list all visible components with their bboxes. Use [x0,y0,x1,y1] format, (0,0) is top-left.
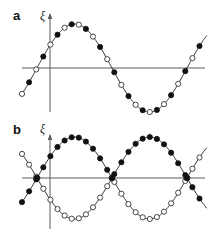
marker-open-atom [140,215,145,220]
marker-open-atom [190,56,195,61]
panel-b-y-arrowhead [48,134,53,140]
marker-filled-atom [126,93,131,98]
marker-open-atom [90,34,95,39]
marker-open-atom [69,216,74,221]
marker-open-atom [34,67,39,72]
marker-filled-atom [19,200,24,205]
panel-optical-mode: b ξ [0,117,209,234]
marker-filled-atom [83,139,88,144]
marker-open-atom [126,202,131,207]
marker-filled-atom [147,134,152,139]
marker-filled-atom [83,26,88,31]
marker-open-atom [119,191,124,196]
marker-open-atom [133,102,138,107]
marker-filled-atom [98,156,103,161]
marker-open-atom [133,210,138,215]
marker-filled-atom [112,70,117,75]
marker-filled-atom [140,136,145,141]
marker-filled-atom [48,154,53,159]
panel-a-plot [0,0,209,117]
marker-filled-atom [109,175,115,181]
marker-open-atom [154,214,159,219]
marker-filled-atom [197,196,202,201]
marker-open-atom [176,190,181,195]
marker-filled-atom [98,44,103,49]
marker-filled-atom [69,135,74,140]
marker-open-atom [41,186,46,191]
marker-open-atom [105,57,110,62]
marker-open-atom [119,82,124,87]
marker-open-atom [98,195,103,200]
marker-filled-atom [154,136,159,141]
marker-filled-atom [169,150,174,155]
marker-filled-atom [184,175,190,181]
marker-open-atom [27,162,32,167]
marker-filled-atom [41,165,46,170]
marker-open-atom [48,42,53,47]
marker-open-atom [161,209,166,214]
marker-open-atom [19,91,24,96]
marker-open-atom [83,212,88,217]
panel-b-plot [0,117,209,234]
marker-filled-atom [55,144,60,149]
marker-open-atom [161,102,166,107]
marker-open-atom [48,197,53,202]
marker-filled-atom [154,107,159,112]
marker-filled-atom [69,22,74,27]
marker-filled-atom [62,138,67,143]
marker-open-atom [62,213,67,218]
marker-filled-atom [133,141,138,146]
marker-open-atom [76,22,81,27]
marker-open-atom [105,184,110,189]
marker-filled-atom [176,161,181,166]
marker-open-atom [147,109,152,114]
panel-a-y-arrowhead [48,13,53,19]
marker-filled-atom [119,160,124,165]
marker-open-atom [190,166,195,171]
panel-acoustic-mode: a ξ [0,0,209,117]
marker-filled-atom [161,142,166,147]
marker-open-atom [197,155,202,160]
marker-filled-atom [27,80,32,85]
marker-filled-atom [34,175,40,181]
marker-open-atom [90,205,95,210]
marker-filled-atom [126,149,131,154]
marker-open-atom [62,25,67,30]
marker-open-atom [147,216,152,221]
marker-filled-atom [183,69,188,74]
marker-filled-atom [105,167,110,172]
marker-filled-atom [140,108,145,113]
marker-open-atom [169,201,174,206]
lattice-vibration-figure: a ξ b ξ [0,0,209,234]
marker-filled-atom [76,135,81,140]
marker-open-atom [176,81,181,86]
marker-open-atom [19,151,24,156]
marker-open-atom [55,206,60,211]
marker-open-atom [76,216,81,221]
marker-filled-atom [41,54,46,59]
marker-filled-atom [197,43,202,48]
marker-filled-atom [190,185,195,190]
marker-filled-atom [169,93,174,98]
marker-filled-atom [55,32,60,37]
marker-filled-atom [27,189,32,194]
marker-filled-atom [90,146,95,151]
panel-a-axes [22,13,205,112]
